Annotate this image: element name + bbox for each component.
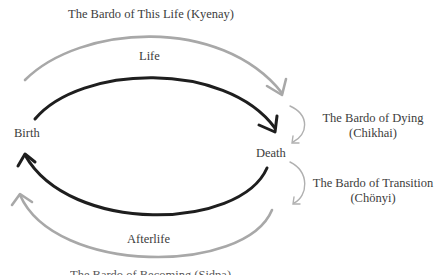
bardo-this-life-arrow <box>25 37 286 95</box>
label-death: Death <box>256 146 286 161</box>
bardo-dying-arrow <box>290 106 305 143</box>
label-birth: Birth <box>14 126 40 141</box>
return-to-birth-arrow <box>18 154 267 215</box>
label-life: Life <box>139 49 160 64</box>
label-bardo-transition: The Bardo of Transition (Chönyi) <box>309 176 437 206</box>
label-bardo-transition-title: The Bardo of Transition <box>309 176 437 191</box>
label-afterlife: Afterlife <box>127 232 170 247</box>
afterlife-arrow <box>12 194 272 257</box>
label-bardo-transition-sub: (Chönyi) <box>309 191 437 206</box>
bardo-transition-arrow <box>290 162 305 204</box>
label-bardo-this-life: The Bardo of This Life (Kyenay) <box>68 7 234 22</box>
label-bardo-dying-sub: (Chikhai) <box>312 126 434 141</box>
label-bardo-dying-title: The Bardo of Dying <box>312 111 434 126</box>
life-arrow <box>35 78 277 132</box>
label-bardo-dying: The Bardo of Dying (Chikhai) <box>312 111 434 141</box>
label-bottom-cropped: The Bardo of Becoming (Sidpa) <box>70 268 231 275</box>
